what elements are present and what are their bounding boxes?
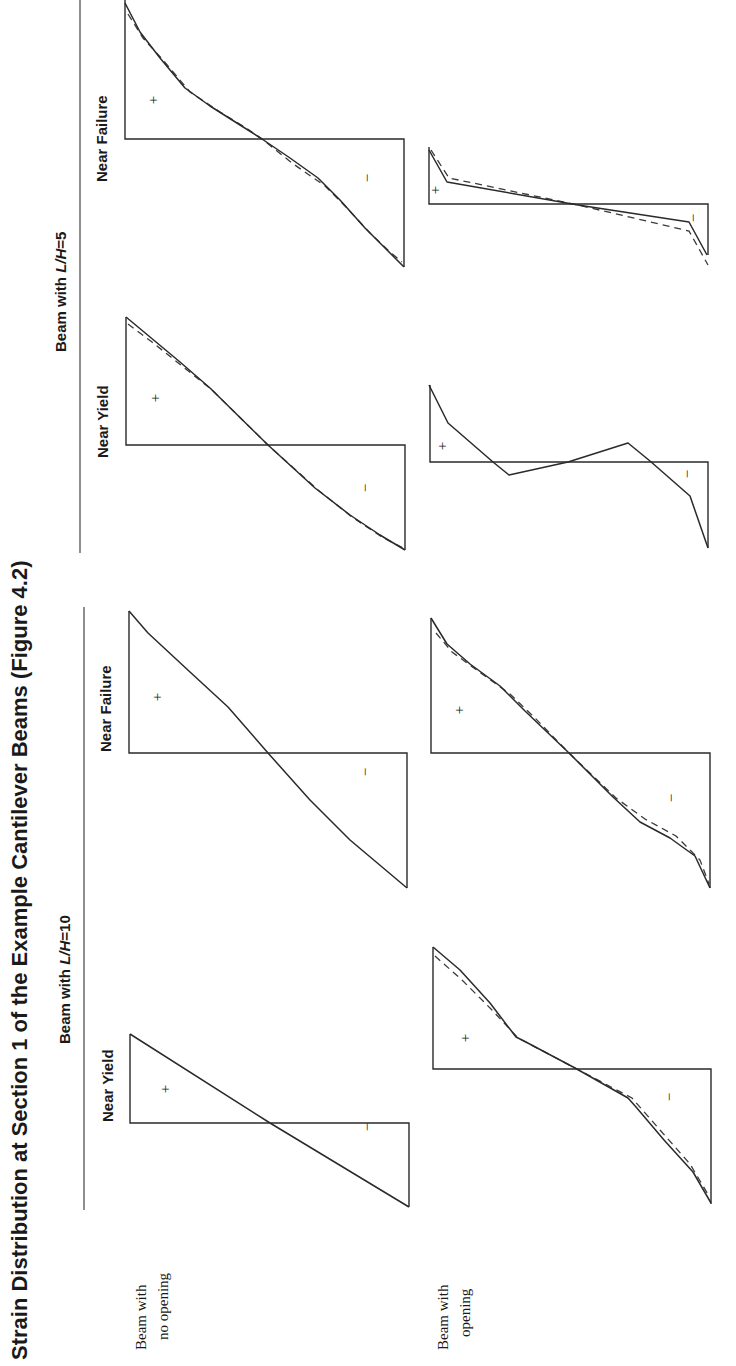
strain-curve-solid: [429, 150, 707, 255]
strain-curve-dashed: [128, 14, 402, 262]
panel-frame: [431, 618, 710, 888]
negative-sign: −: [661, 1093, 677, 1101]
strain-curve-dashed: [435, 956, 709, 1196]
strain-curve-solid: [433, 947, 711, 1203]
negative-sign: −: [663, 794, 679, 802]
column-header-lh5-near-failure: Near Failure: [93, 95, 110, 182]
panel-frame: [129, 611, 407, 888]
positive-sign: +: [157, 1085, 173, 1093]
column-header-lh10-near-failure: Near Failure: [97, 665, 114, 752]
svg-text:Beam with: Beam with: [133, 1284, 149, 1350]
positive-sign: +: [451, 706, 467, 714]
negative-sign: −: [357, 768, 373, 776]
negative-sign: −: [679, 470, 695, 478]
strain-curve-solid: [429, 385, 708, 548]
strain-distribution-figure: Strain Distribution at Section 1 of the …: [0, 0, 736, 1366]
strain-panel-opening-LH10-near-yield: +−: [433, 947, 711, 1204]
svg-text:Beam with: Beam with: [435, 1284, 451, 1350]
figure-title: Strain Distribution at Section 1 of the …: [7, 560, 32, 1360]
svg-text:opening: opening: [457, 1288, 473, 1337]
column-header-lh5-near-yield: Near Yield: [94, 385, 111, 458]
strain-panel-opening-LH5-near-yield: +−: [429, 385, 708, 548]
positive-sign: +: [149, 693, 165, 701]
panel-frame: [430, 385, 708, 548]
column-header-lh10-near-yield: Near Yield: [99, 1049, 116, 1122]
row-label-opening: Beam with opening: [435, 1284, 473, 1350]
strain-curve-solid: [126, 317, 405, 550]
panel-frame: [125, 0, 404, 267]
positive-sign: +: [427, 186, 443, 194]
strain-curve-solid: [130, 1034, 409, 1207]
strain-panel-no-opening-LH10-near-failure: +−: [129, 611, 407, 888]
negative-sign: −: [357, 484, 373, 492]
svg-text:no opening: no opening: [155, 1272, 171, 1340]
strain-curve-solid: [129, 611, 407, 888]
negative-sign: −: [359, 174, 375, 182]
negative-sign: −: [685, 214, 701, 222]
positive-sign: +: [434, 442, 450, 450]
group-header-lh10: Beam with L/H=10: [56, 915, 73, 1044]
strain-panel-opening-LH5-near-failure: +−: [427, 147, 708, 265]
row-label-no-opening: Beam with no opening: [133, 1272, 171, 1350]
group-header-lh5: Beam with L/H=5: [52, 232, 69, 352]
negative-sign: −: [359, 1123, 375, 1131]
panel-frame: [429, 147, 708, 255]
strain-panel-no-opening-LH10-near-yield: +−: [130, 1034, 409, 1207]
strain-curve-dashed: [436, 633, 709, 884]
strain-panels: +−+−+−+−+−+−+−+−: [125, 0, 711, 1207]
strain-curve-solid: [125, 3, 404, 267]
strain-curve-dashed: [431, 150, 708, 265]
strain-panel-no-opening-LH5-near-failure: +−: [125, 0, 404, 267]
positive-sign: +: [457, 1034, 473, 1042]
positive-sign: +: [145, 96, 161, 104]
strain-panel-no-opening-LH5-near-yield: +−: [126, 317, 405, 550]
strain-panel-opening-LH10-near-failure: +−: [431, 618, 710, 888]
positive-sign: +: [147, 394, 163, 402]
strain-curve-dashed: [128, 324, 403, 548]
